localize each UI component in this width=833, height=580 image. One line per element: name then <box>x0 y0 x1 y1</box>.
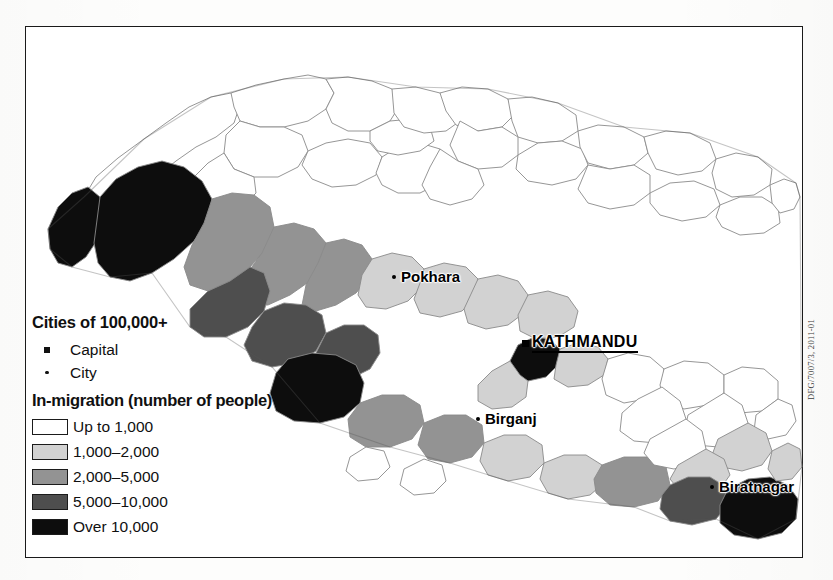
legend-swatch <box>32 419 68 435</box>
legend-swatch <box>32 444 68 460</box>
map-legend: Cities of 100,000+ Capital City In-migra… <box>32 313 292 539</box>
legend-city-class-capital: Capital <box>32 338 292 361</box>
city-label-kathmandu: KATHMANDU <box>532 333 638 353</box>
legend-migration-heading: In-migration (number of people) <box>32 391 292 410</box>
city-label-birganj: Birganj <box>485 410 537 427</box>
square-marker <box>522 340 529 347</box>
legend-class-label: 5,000–10,000 <box>73 493 168 511</box>
city-marker-kathmandu: KATHMANDU <box>522 333 638 353</box>
legend-class-row: 2,000–5,000 <box>32 464 292 489</box>
legend-class-label: 1,000–2,000 <box>73 443 159 461</box>
dot-marker <box>476 417 480 421</box>
legend-capital-label: Capital <box>62 341 118 359</box>
city-label-biratnagar: Biratnagar <box>719 478 794 495</box>
map-frame: .d{stroke:#8a8a8a;stroke-width:0.9;strok… <box>25 26 803 558</box>
dot-marker <box>392 275 396 279</box>
city-marker-biratnagar: Biratnagar <box>710 478 794 495</box>
legend-swatch <box>32 469 68 485</box>
city-marker-pokhara: Pokhara <box>392 268 460 285</box>
legend-class-row: Over 10,000 <box>32 514 292 539</box>
legend-class-label: Over 10,000 <box>73 518 158 536</box>
legend-city-label: City <box>62 364 97 382</box>
legend-class-row: 1,000–2,000 <box>32 439 292 464</box>
legend-swatch <box>32 494 68 510</box>
legend-class-label: Up to 1,000 <box>73 418 153 436</box>
legend-swatch <box>32 519 68 535</box>
legend-class-row: Up to 1,000 <box>32 414 292 439</box>
city-label-pokhara: Pokhara <box>401 268 460 285</box>
square-marker-icon <box>32 347 62 353</box>
city-marker-birganj: Birganj <box>476 410 537 427</box>
legend-class-row: 5,000–10,000 <box>32 489 292 514</box>
legend-class-label: 2,000–5,000 <box>73 468 159 486</box>
figure-credit: DFG/7007/3, 2011-01 <box>806 319 816 400</box>
legend-city-class-city: City <box>32 361 292 384</box>
legend-cities-heading: Cities of 100,000+ <box>32 313 292 332</box>
dot-marker-icon <box>32 371 62 375</box>
dot-marker <box>710 485 714 489</box>
